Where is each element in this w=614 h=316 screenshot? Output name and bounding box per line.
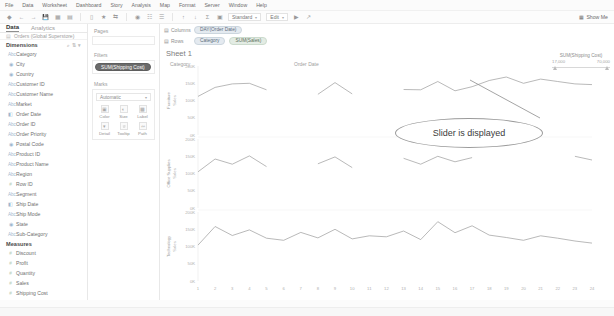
menu-item-analysis[interactable]: Analysis — [132, 2, 151, 8]
slider-handle-min[interactable] — [553, 66, 557, 70]
sales-by-day-line-chart[interactable]: 0K50K100K150K200KSalesFurniture0K50K100K… — [164, 60, 598, 295]
duplicate-icon[interactable]: ▯ — [88, 14, 95, 21]
field-segment[interactable]: AbcSegment — [0, 189, 87, 199]
field-row-id[interactable]: #Row ID — [0, 179, 87, 189]
menu-item-file[interactable]: File — [5, 2, 13, 8]
menu-item-story[interactable]: Story — [110, 2, 122, 8]
globe-icon: ◉ — [8, 72, 13, 77]
field-state[interactable]: ◉State — [0, 219, 87, 229]
field-discount[interactable]: #Discount — [0, 248, 87, 258]
tableau-logo-icon[interactable]: ◆ — [6, 14, 13, 21]
tab-data[interactable]: Data — [6, 24, 19, 32]
field-product-id[interactable]: AbcProduct ID — [0, 149, 87, 159]
menu-item-format[interactable]: Format — [179, 2, 195, 8]
rows-shelf[interactable]: Category SUM(Sales) — [194, 36, 614, 45]
dimensions-list: AbcCategory ◉City ◉Country AbcCustomer I… — [0, 49, 87, 239]
marks-label-button[interactable]: ▩ Label — [134, 105, 151, 119]
show-labels-icon[interactable]: ☰ — [158, 14, 165, 21]
field-ship-mode[interactable]: AbcShip Mode — [0, 209, 87, 219]
field-profit[interactable]: #Profit — [0, 258, 87, 268]
view-pane: ▤ Columns DAY(Order Date) ▤ Rows Categor… — [160, 24, 614, 316]
group-icon[interactable]: ☷ — [146, 14, 153, 21]
field-category[interactable]: AbcCategory — [0, 49, 87, 59]
field-label: Sales — [16, 280, 29, 286]
field-sub-category[interactable]: AbcSub-Category — [0, 229, 87, 239]
calendar-icon: ◧ — [8, 112, 13, 117]
field-postal-code[interactable]: ◉Postal Code — [0, 139, 87, 149]
forward-arrow-icon[interactable]: → — [30, 14, 37, 21]
marks-size-button[interactable]: ◐ Size — [115, 105, 132, 119]
menu-item-server[interactable]: Server — [204, 2, 219, 8]
save-icon[interactable]: 💾 — [42, 14, 49, 21]
field-product-name[interactable]: AbcProduct Name — [0, 159, 87, 169]
filter-card-shipping-cost[interactable]: SUM(Shipping Cost) 17,000 70,000 — [550, 52, 612, 71]
abc-icon: Abc — [8, 82, 13, 87]
show-me-label: Show Me — [586, 14, 608, 20]
field-ship-date[interactable]: ◧Ship Date — [0, 199, 87, 209]
x-axis-tick-label: 14 — [418, 286, 423, 291]
slider-handle-max[interactable] — [605, 66, 609, 70]
dimensions-tools[interactable]: ⌕ ⇅ ▾ — [67, 43, 81, 48]
menu-item-window[interactable]: Window — [229, 2, 247, 8]
field-order-priority[interactable]: AbcOrder Priority — [0, 129, 87, 139]
field-sales[interactable]: #Sales — [0, 278, 87, 288]
data-source-icon: ▤ — [6, 34, 11, 39]
filters-shelf[interactable]: SUM(Shipping Cost) — [92, 60, 155, 74]
x-axis-tick-label: 16 — [453, 286, 458, 291]
field-country[interactable]: ◉Country — [0, 69, 87, 79]
field-market[interactable]: AbcMarket — [0, 99, 87, 109]
pill-day-order-date[interactable]: DAY(Order Date) — [194, 26, 242, 34]
menu-item-map[interactable]: Map — [160, 2, 170, 8]
new-data-source-icon[interactable]: ▦ — [54, 14, 61, 21]
menu-item-dashboard[interactable]: Dashboard — [76, 2, 101, 8]
field-label: Category — [16, 51, 37, 57]
presentation-mode-icon[interactable]: ▶ — [293, 14, 300, 21]
edit-selector[interactable]: Edit ▾ — [266, 13, 288, 22]
pages-shelf[interactable] — [92, 36, 155, 45]
field-shipping-cost[interactable]: #Shipping Cost — [0, 288, 87, 298]
columns-shelf[interactable]: DAY(Order Date) — [194, 25, 614, 34]
back-arrow-icon[interactable]: ← — [18, 14, 25, 21]
field-quantity[interactable]: #Quantity — [0, 268, 87, 278]
data-source-item[interactable]: ▤ Orders (Global Superstore) — [0, 33, 87, 40]
filter-pill-shipping-cost[interactable]: SUM(Shipping Cost) — [95, 63, 151, 71]
fix-axes-icon[interactable]: ▣ — [216, 14, 223, 21]
fit-selector[interactable]: Standard ▾ — [228, 13, 261, 22]
marks-tooltip-button[interactable]: ◽ Tooltip — [115, 122, 132, 136]
marks-detail-button[interactable]: ▾ Detail — [96, 122, 113, 136]
field-customer-name[interactable]: AbcCustomer Name — [0, 89, 87, 99]
marks-path-label: Path — [138, 131, 147, 136]
marks-type-selector[interactable]: Automatic ▾ — [96, 93, 151, 101]
clear-sheet-icon[interactable]: ★ — [100, 14, 107, 21]
chart-area[interactable]: Category Order Date 0K50K100K150K200KSal… — [164, 60, 610, 316]
pill-category[interactable]: Category — [194, 37, 225, 45]
swap-rows-cols-icon[interactable]: ⇆ — [112, 14, 119, 21]
field-order-id[interactable]: AbcOrder ID — [0, 119, 87, 129]
field-customer-id[interactable]: AbcCustomer ID — [0, 79, 87, 89]
show-me-button[interactable]: ▦ Show Me — [579, 14, 608, 20]
columns-label-text: Columns — [171, 27, 191, 33]
share-icon[interactable]: ↗ — [305, 14, 312, 21]
status-bar — [0, 307, 614, 316]
marks-color-button[interactable]: ▣ Color — [96, 105, 113, 119]
filter-range-slider[interactable] — [552, 65, 610, 70]
worksheet-tabs-bar[interactable] — [0, 300, 614, 307]
menu-item-help[interactable]: Help — [256, 2, 267, 8]
menu-item-data[interactable]: Data — [22, 2, 33, 8]
sort-ascending-icon[interactable]: ↑ — [180, 14, 187, 21]
chevron-down-icon[interactable]: ▾ — [78, 43, 81, 48]
totals-icon[interactable]: Σ — [204, 14, 211, 21]
highlight-icon[interactable]: ◉ — [134, 14, 141, 21]
pill-sum-sales[interactable]: SUM(Sales) — [229, 37, 267, 45]
y-axis-tick-label: 0K — [190, 279, 195, 284]
new-worksheet-icon[interactable]: ▤ — [66, 14, 73, 21]
search-icon[interactable]: ⌕ — [67, 43, 70, 48]
field-city[interactable]: ◉City — [0, 59, 87, 69]
sort-icon[interactable]: ⇅ — [72, 43, 76, 48]
field-region[interactable]: AbcRegion — [0, 169, 87, 179]
menu-item-worksheet[interactable]: Worksheet — [42, 2, 67, 8]
field-order-date[interactable]: ◧Order Date — [0, 109, 87, 119]
tab-analytics[interactable]: Analytics — [31, 25, 55, 32]
sort-descending-icon[interactable]: ↓ — [192, 14, 199, 21]
marks-path-button[interactable]: ∾ Path — [134, 122, 151, 136]
